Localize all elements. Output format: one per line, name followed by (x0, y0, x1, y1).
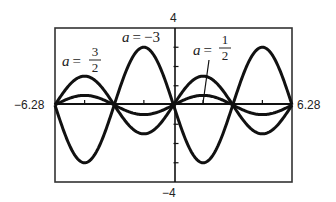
svg-text:a=: a= (62, 53, 81, 69)
label-value: −3 (144, 29, 160, 45)
x-min-label: −6.28 (14, 98, 45, 112)
label-eq: = (204, 42, 212, 58)
label-eq: = (73, 53, 81, 69)
label-var: a (62, 53, 70, 69)
svg-text:a=: a= (193, 42, 212, 58)
y-min-label: −4 (162, 186, 176, 200)
label-den: 2 (222, 48, 229, 63)
label-den: 2 (92, 60, 99, 75)
label-num: 3 (92, 44, 99, 59)
label-a-3-2: a= 3 2 (62, 44, 101, 75)
y-max-label: 4 (170, 11, 177, 25)
label-var: a (193, 42, 201, 58)
label-var: a (122, 29, 130, 45)
label-eq: = (133, 29, 141, 45)
chart: 4 −4 −6.28 6.28 a= 3 2 a=−3 a= 1 2 (0, 0, 336, 202)
svg-text:a=−3: a=−3 (122, 29, 160, 45)
label-a-neg3: a=−3 (122, 29, 160, 45)
label-num: 1 (222, 32, 229, 47)
x-max-label: 6.28 (297, 98, 321, 112)
